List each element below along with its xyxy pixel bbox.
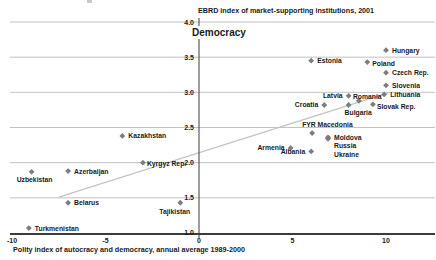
- marker-belarus: [65, 200, 71, 206]
- marker-czech-rep: [383, 70, 389, 76]
- marker-albania: [308, 149, 314, 155]
- marker-kyrgyz-rep: [140, 160, 146, 166]
- label-hungary: Hungary: [392, 47, 420, 55]
- label-kyrgyz-rep: Kyrgyz Rep.: [147, 160, 186, 168]
- label-poland: Poland: [372, 60, 395, 67]
- label-azerbaijan: Azerbaijan: [74, 168, 108, 176]
- label-lithuania: Lithuania: [390, 91, 420, 98]
- marker-kazakhstan: [119, 133, 125, 139]
- label-croatia: Croatia: [295, 101, 319, 108]
- label-estonia: Estonia: [317, 57, 342, 64]
- label-latvia: Latvia: [323, 92, 343, 99]
- x-tick-label--5: -5: [102, 237, 108, 244]
- x-axis-label: Polity index of autocracy and democracy,…: [13, 245, 245, 254]
- y-tick-label-2.5: 2.5: [184, 124, 194, 131]
- marker-slovenia: [383, 82, 389, 88]
- x-tick-label-5: 5: [291, 237, 295, 244]
- label-ukraine: Ukraine: [334, 151, 359, 158]
- x-tick-label--10: -10: [7, 237, 17, 244]
- chart-canvas: 4.03.53.02.52.01.51.0-10-50510 HungaryEs…: [0, 0, 436, 260]
- marker-hungary: [383, 47, 389, 53]
- marker-turkmenistan: [26, 225, 32, 231]
- x-tick-label-10: 10: [382, 237, 390, 244]
- marker-estonia: [308, 58, 314, 64]
- marker-tajikistan: [177, 200, 183, 206]
- marker-latvia: [346, 93, 352, 99]
- label-turkmenistan: Turkmenistan: [35, 225, 79, 232]
- y-tick-label-1: 1.0: [184, 229, 194, 236]
- marker-slovak-rep: [370, 101, 376, 107]
- label-slovak-rep: Slovak Rep.: [377, 103, 416, 111]
- y-axis-heading: Democracy: [192, 27, 246, 38]
- label-uzbekistan: Uzbekistan: [17, 176, 53, 183]
- label-romania: Romania: [353, 93, 382, 100]
- label-kazakhstan: Kazakhstan: [128, 132, 166, 139]
- marker-fyr-macedonia: [309, 130, 315, 136]
- x-tick-label-0: 0: [197, 237, 201, 244]
- label-czech-rep: Czech Rep.: [392, 69, 429, 77]
- y-tick-label-3.5: 3.5: [184, 54, 194, 61]
- label-russia: Russia: [334, 142, 357, 149]
- label-albania: Albania: [281, 148, 306, 155]
- chart-title: EBRD index of market-supporting institut…: [198, 6, 374, 15]
- label-moldova: Moldova: [334, 134, 362, 141]
- data-points: HungaryEstoniaPolandCzech Rep.SloveniaLi…: [17, 47, 429, 232]
- y-tick-label-4: 4.0: [184, 19, 194, 26]
- scatter-chart: 4.03.53.02.52.01.51.0-10-50510 HungaryEs…: [0, 0, 436, 260]
- label-fyr-macedonia: FYR Macedonia: [302, 121, 353, 128]
- marker-azerbaijan: [65, 168, 71, 174]
- marker-uzbekistan: [29, 169, 35, 175]
- label-belarus: Belarus: [74, 199, 99, 206]
- label-bulgaria: Bulgaria: [345, 109, 372, 117]
- label-tajikistan: Tajikistan: [159, 208, 190, 216]
- marker-bulgaria: [346, 102, 352, 108]
- y-tick-label-3: 3.0: [184, 89, 194, 96]
- marker-croatia: [321, 102, 327, 108]
- screenshot-crop-artifact: [87, 0, 92, 3]
- marker-poland: [364, 59, 370, 65]
- label-slovenia: Slovenia: [392, 82, 420, 89]
- tick-labels: 4.03.53.02.52.01.51.0-10-50510: [7, 19, 390, 245]
- y-tick-label-1.5: 1.5: [184, 194, 194, 201]
